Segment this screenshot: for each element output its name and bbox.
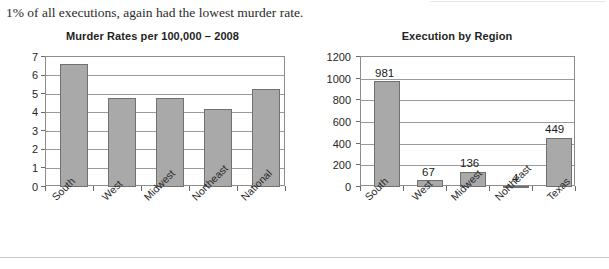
y-tick-label: 0 bbox=[305, 182, 351, 193]
x-tick-mark bbox=[141, 186, 142, 191]
x-tick-mark bbox=[575, 186, 576, 191]
x-tick-mark bbox=[189, 186, 190, 191]
y-tick-label: 400 bbox=[305, 139, 351, 150]
plot-area-murder-rates bbox=[45, 56, 285, 186]
data-label-south: 981 bbox=[375, 67, 394, 79]
chart-title-murder-rates: Murder Rates per 100,000 – 2008 bbox=[0, 30, 305, 44]
chart-executions: Execution by Region 0 200 400 600 800 10… bbox=[305, 30, 609, 44]
x-tick-mark bbox=[446, 186, 447, 191]
y-tick-label: 1 bbox=[0, 163, 38, 174]
y-tick-label: 3 bbox=[0, 126, 38, 137]
chart-murder-rates: Murder Rates per 100,000 – 2008 0 1 2 3 … bbox=[0, 30, 305, 44]
bar-south bbox=[374, 81, 400, 187]
y-tick-label: 600 bbox=[305, 117, 351, 128]
bar-west bbox=[108, 98, 136, 187]
scan-artifact-top bbox=[430, 1, 605, 2]
page-bottom-rule bbox=[0, 257, 609, 258]
x-tick-mark bbox=[45, 186, 46, 191]
y-tick-label: 800 bbox=[305, 95, 351, 106]
y-tick-label: 7 bbox=[0, 52, 38, 63]
body-paragraph: 1% of all executions, again had the lowe… bbox=[6, 5, 566, 21]
y-tick-label: 200 bbox=[305, 160, 351, 171]
x-tick-mark bbox=[237, 186, 238, 191]
y-tick-label: 2 bbox=[0, 144, 38, 155]
x-tick-mark bbox=[360, 186, 361, 191]
chart-title-executions: Execution by Region bbox=[305, 30, 609, 44]
gridline bbox=[361, 79, 574, 80]
y-tick-label: 4 bbox=[0, 107, 38, 118]
y-tick-label: 5 bbox=[0, 89, 38, 100]
y-tick-label: 1000 bbox=[305, 74, 351, 85]
y-tick-label: 1200 bbox=[305, 52, 351, 63]
y-tick-label: 0 bbox=[0, 182, 38, 193]
data-label-texas: 449 bbox=[545, 123, 564, 135]
bar-south bbox=[60, 64, 88, 187]
x-tick-mark bbox=[489, 186, 490, 191]
x-tick-mark bbox=[93, 186, 94, 191]
x-tick-mark bbox=[532, 186, 533, 191]
data-label-west: 67 bbox=[422, 166, 435, 178]
y-tick-label: 6 bbox=[0, 70, 38, 81]
x-tick-mark bbox=[403, 186, 404, 191]
x-tick-mark bbox=[285, 186, 286, 191]
